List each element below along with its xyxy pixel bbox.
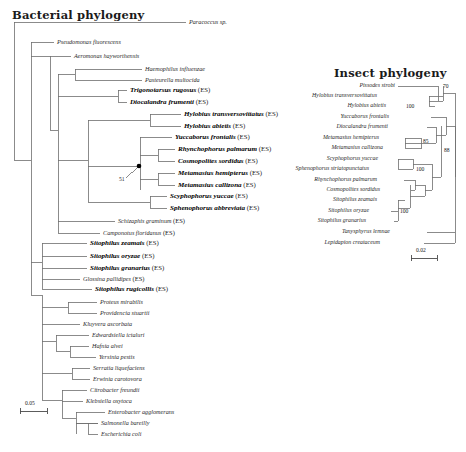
tip-label: Haemophilus influenzae [145, 65, 205, 72]
tip-label: Cosmopolites sordidus [260, 186, 380, 193]
support-value-100-hylobius: 100 [406, 103, 414, 109]
taxon-name: Hylobius transversovittatus [184, 110, 264, 118]
tip-label: Pseudomonas fluorescens [57, 38, 121, 45]
tip-label: Sitophilus rugicollis (ES) [95, 285, 168, 293]
tip-label: Lepidapion creataceum [260, 239, 380, 246]
taxon-name: Metamasius hemipterus [178, 169, 248, 177]
tip-label: Metamasius callizona [260, 144, 383, 151]
taxon-name: Enterobacter agglomerans [108, 408, 174, 415]
tip-label: Diocalandra frumenti (ES) [130, 98, 208, 106]
support-value-70: 70 [443, 83, 449, 89]
tip-label: Cosmopolites sordidus (ES) [178, 157, 258, 165]
tip-label: Hylobius transversovittatus [260, 92, 377, 99]
taxon-name: Citrobacter freundii [90, 386, 140, 393]
taxon-name: Yersinia pestis [99, 353, 135, 360]
endosymbiont-tag: (ES) [145, 239, 159, 246]
tip-label: Paracoccus sp. [189, 18, 227, 25]
bacterial-phylogeny-title: Bacterial phylogeny [12, 8, 144, 22]
tip-label: Sphenophorus striatopunctatus [260, 165, 369, 172]
endosymbiont-tag: (ES) [171, 217, 185, 224]
endosymbiont-tag: (ES) [244, 157, 258, 164]
endosymbiont-tag: (ES) [194, 98, 208, 105]
endosymbiont-tag: (ES) [234, 192, 248, 199]
taxon-name: Rhynchophorus palmarum [178, 145, 257, 153]
endosymbiont-tag: (ES) [236, 133, 250, 140]
taxon-name: Serratia liquefaciens [93, 364, 145, 371]
tip-label: Sitophilus zeamais (ES) [90, 239, 159, 247]
tip-label: Rhynchophorus palmarum (ES) [178, 145, 271, 153]
support-value-88: 88 [444, 147, 450, 153]
taxon-name: Escherichia coli [101, 430, 141, 437]
endosymbiont-tag: (ES) [196, 86, 210, 93]
endosymbiont-tag: (ES) [150, 264, 164, 271]
tip-label: Glossina pallidipes (ES) [83, 275, 145, 282]
taxon-name: Klebsiella oxytoca [86, 397, 132, 404]
taxon-name: Cosmopolites sordidus [178, 157, 244, 165]
endosymbiont-tag: (ES) [231, 122, 245, 129]
taxon-name: Hafnia alvei [92, 342, 123, 349]
tip-label: Hylobius abietis [260, 102, 386, 109]
phylogenetic-figure: Bacterial phylogeny Insect phylogeny Par… [0, 0, 466, 452]
taxon-name: Schizaphis graminum [118, 217, 171, 224]
taxon-name: Diocalandra frumenti [130, 98, 194, 106]
taxon-name: Sitophilus rugicollis [95, 285, 154, 293]
taxon-name: Sitophilus granarius [90, 264, 150, 272]
tip-label: Metamasius hemipterus (ES) [178, 169, 262, 177]
tip-label: Metamasius hemipterus [260, 134, 379, 141]
endosymbiont-tag: (ES) [161, 229, 175, 236]
taxon-name: Salmonella bareilly [101, 419, 149, 426]
tip-label: Serratia liquefaciens [93, 364, 145, 371]
tip-label: Edwardsiella ictaluri [92, 331, 145, 338]
tip-label: Yuccaborus frontalis [260, 113, 389, 120]
tip-label: Sphenophorus abbreviata (ES) [170, 204, 259, 212]
insect-phylogeny-title: Insect phylogeny [334, 66, 447, 80]
tip-label: Providencia stuartii [100, 309, 149, 316]
taxon-name: Pseudomonas fluorescens [57, 38, 121, 45]
taxon-name: Scyphophorus yuccae [170, 192, 234, 200]
tip-label: Scyphophorus yuccae (ES) [170, 192, 248, 200]
support-value-100-sphenophorus: 100 [416, 166, 424, 172]
tip-label: Diocalandra frumenti [260, 123, 388, 130]
tip-label: Sitophilus zeamais [260, 196, 377, 203]
support-value-51: 51 [119, 176, 125, 182]
taxon-name: Hylobius abietis [184, 122, 231, 130]
tip-label: Citrobacter freundii [90, 386, 140, 393]
support-value-100-sitophilus: 100 [400, 208, 408, 214]
tip-label: Kluyvera ascorbata [83, 320, 132, 327]
taxon-name: Sitophilus oryzae [90, 252, 140, 260]
taxon-name: Sitophilus zeamais [90, 239, 145, 247]
tip-label: Salmonella bareilly [101, 419, 149, 426]
tip-label: Sitophilus granarius [260, 217, 366, 224]
endosymbiont-tag: (ES) [131, 275, 145, 282]
tip-label: Schizaphis graminum (ES) [118, 217, 185, 224]
bacterial-scale-label: 0.05 [25, 400, 35, 406]
taxon-name: Aeromonas hayworthensis [74, 52, 139, 59]
tip-label: Metamasius callizona (ES) [178, 181, 256, 189]
tip-label: Trigonotarsus rugosus (ES) [130, 86, 210, 94]
endosymbiont-tag: (ES) [140, 252, 154, 259]
taxon-name: Glossina pallidipes [83, 275, 131, 282]
taxon-name: Providencia stuartii [100, 309, 149, 316]
tip-label: Klebsiella oxytoca [86, 397, 132, 404]
tip-label: Hafnia alvei [92, 342, 123, 349]
tip-label: Pasteurella multocida [145, 76, 200, 83]
taxon-name: Edwardsiella ictaluri [92, 331, 145, 338]
taxon-name: Camponotus floridanus [103, 229, 161, 236]
tip-label: Aeromonas hayworthensis [74, 52, 139, 59]
tip-label: Camponotus floridanus (ES) [103, 229, 175, 236]
taxon-name: Sphenophorus abbreviata [170, 204, 245, 212]
tip-label: Escherichia coli [101, 430, 141, 437]
taxon-name: Erwinia carotovora [93, 375, 142, 382]
tip-label: Sitophilus oryzae (ES) [90, 252, 154, 260]
tip-label: Yersinia pestis [99, 353, 135, 360]
support-value-85: 85 [423, 138, 429, 144]
tip-label: Scyphophorus yuccae [260, 155, 378, 162]
endosymbiont-tag: (ES) [245, 204, 259, 211]
taxon-name: Paracoccus sp. [189, 18, 227, 25]
taxon-name: Haemophilus influenzae [145, 65, 205, 72]
taxon-name: Trigonotarsus rugosus [130, 86, 196, 94]
tip-label: Sitophilus oryzae [260, 207, 369, 214]
tip-label: Enterobacter agglomerans [108, 408, 174, 415]
taxon-name: Kluyvera ascorbata [83, 320, 132, 327]
taxon-name: Yuccaborus frontalis [175, 133, 236, 141]
